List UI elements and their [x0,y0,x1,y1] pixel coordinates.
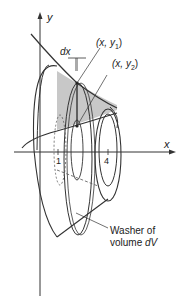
dx-label: dx [60,46,72,57]
x-axis-arrow-icon [169,150,176,155]
dx-strip [75,58,78,71]
point-y2-label: (x, y2) [112,58,138,71]
washer-label-line1: Washer of [110,225,155,236]
outer-solid-left [33,66,57,237]
y-axis-arrow-icon [38,12,43,19]
washer-method-diagram: y x 1 4 dx (x, y1) (x, y2) Washer of vol… [0,0,185,301]
leader-washer [76,213,108,228]
y-axis-label: y [46,11,54,23]
washer-label-line2: volume dV [110,237,159,248]
washer-inner [71,120,83,180]
tick-label-1: 1 [56,156,61,166]
leader-y1 [77,48,100,83]
tick-label-4: 4 [104,156,109,166]
x-axis-label: x [163,138,170,150]
